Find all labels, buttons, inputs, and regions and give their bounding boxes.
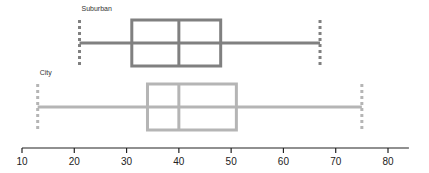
x-tick-label: 30 bbox=[121, 156, 133, 167]
x-tick-label: 70 bbox=[330, 156, 342, 167]
boxes-layer: SuburbanCity bbox=[38, 5, 362, 130]
x-tick-label: 20 bbox=[69, 156, 81, 167]
box-city: City bbox=[38, 69, 362, 130]
series-label: City bbox=[40, 69, 53, 77]
x-axis: 1020304050607080 bbox=[16, 148, 408, 167]
x-tick-label: 50 bbox=[226, 156, 238, 167]
x-axis-ticks: 1020304050607080 bbox=[16, 148, 394, 167]
x-tick-label: 40 bbox=[173, 156, 185, 167]
x-tick-label: 10 bbox=[16, 156, 28, 167]
box-suburban: Suburban bbox=[80, 5, 321, 66]
x-tick-label: 60 bbox=[278, 156, 290, 167]
x-tick-label: 80 bbox=[382, 156, 394, 167]
series-label: Suburban bbox=[82, 5, 112, 12]
box-plot-chart: SuburbanCity 1020304050607080 bbox=[0, 0, 429, 173]
